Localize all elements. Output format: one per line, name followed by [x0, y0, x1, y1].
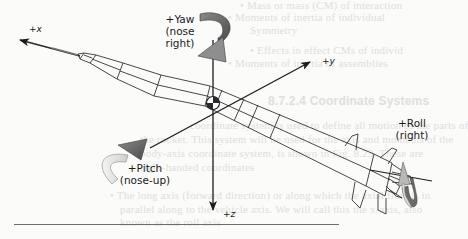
y-axis-arrow: [150, 62, 310, 148]
yaw-label-line2: (nose: [163, 25, 197, 37]
yaw-rotation-arrow: [198, 13, 230, 62]
pitch-label: +Pitch (nose-up): [117, 162, 173, 186]
pitch-label-line1: +Pitch: [117, 162, 173, 174]
pitch-label-line2: (nose-up): [117, 174, 173, 186]
x-axis-label: +x: [29, 23, 42, 35]
roll-rotation-arrow: [398, 162, 417, 208]
yaw-label-line3: right): [163, 37, 197, 49]
y-axis-label: +y: [322, 55, 335, 67]
yaw-label: +Yaw (nose right): [163, 13, 197, 49]
yaw-label-line1: +Yaw: [163, 13, 197, 25]
roll-label-line2: (right): [391, 129, 433, 141]
roll-label-line1: +Roll: [391, 117, 433, 129]
center-of-mass-icon: [207, 97, 220, 110]
page-rule-divider: [14, 224, 339, 225]
roll-label: +Roll (right): [391, 117, 433, 141]
rocket-body: [52, 48, 412, 214]
z-axis-label: +z: [223, 208, 235, 220]
